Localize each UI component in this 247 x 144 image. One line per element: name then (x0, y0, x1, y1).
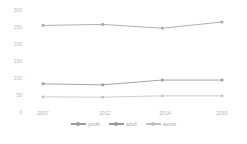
legend-item-senior[interactable]: senior (146, 121, 177, 127)
data-point-senior-2015 (221, 21, 224, 24)
data-point-adult-2015 (221, 79, 224, 82)
legend-item-adult[interactable]: adult (109, 121, 137, 127)
data-point-senior-2012 (101, 23, 104, 26)
data-point-senior-2014 (161, 27, 164, 30)
series-senior (42, 21, 224, 30)
legend-label-senior: senior (163, 121, 177, 127)
chart-legend: youth adult senior (0, 121, 247, 127)
data-point-adult-2012 (101, 84, 104, 87)
data-point-adult-2014 (161, 79, 164, 82)
line-chart: 300 250 200 150 100 50 0 2007 2012 2014 … (0, 0, 247, 144)
data-point-adult-2007 (42, 83, 45, 86)
legend-swatch-adult (109, 123, 124, 125)
series-line-adult (43, 80, 222, 85)
data-point-youth-2012 (101, 96, 104, 99)
data-point-senior-2007 (42, 24, 45, 27)
data-point-youth-2007 (42, 96, 45, 99)
data-point-youth-2014 (161, 95, 164, 98)
legend-swatch-senior (146, 123, 161, 125)
legend-label-youth: youth (88, 121, 100, 127)
series-line-youth (43, 96, 222, 97)
legend-item-youth[interactable]: youth (71, 121, 100, 127)
series-line-senior (43, 22, 222, 28)
series-adult (42, 79, 224, 86)
legend-swatch-youth (71, 123, 86, 125)
data-point-youth-2015 (221, 95, 224, 98)
legend-label-adult: adult (126, 121, 137, 127)
series-youth (42, 95, 224, 99)
